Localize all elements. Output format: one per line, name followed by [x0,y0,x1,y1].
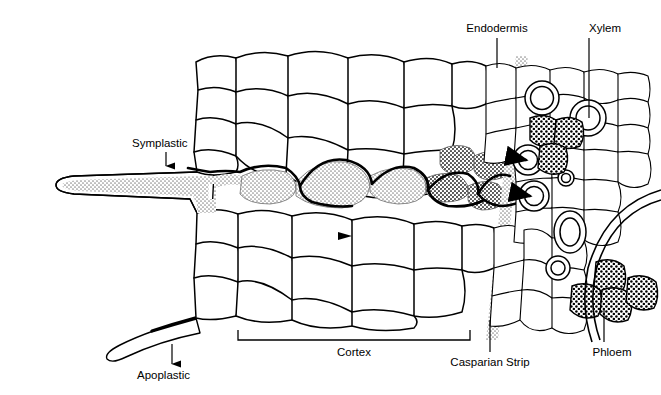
label-casparian-strip: Casparian Strip [450,356,529,368]
label-endodermis: Endodermis [466,22,528,34]
label-phloem: Phloem [593,346,632,358]
root-anatomy-diagram: Symplastic Apoplastic Cortex Casparian S… [0,0,661,395]
label-symplastic: Symplastic [132,137,188,149]
root-hair-lower [107,318,200,361]
label-apoplastic: Apoplastic [137,369,190,381]
diagram-canvas: Symplastic Apoplastic Cortex Casparian S… [0,0,661,395]
cortex-bracket [238,330,470,340]
label-cortex-group: Cortex [238,330,470,358]
label-symplastic-group: Symplastic [132,137,188,166]
label-xylem: Xylem [589,22,621,34]
root-hair-upper [56,172,214,213]
label-cortex: Cortex [337,346,371,358]
label-casparian-group: Casparian Strip [450,320,529,368]
